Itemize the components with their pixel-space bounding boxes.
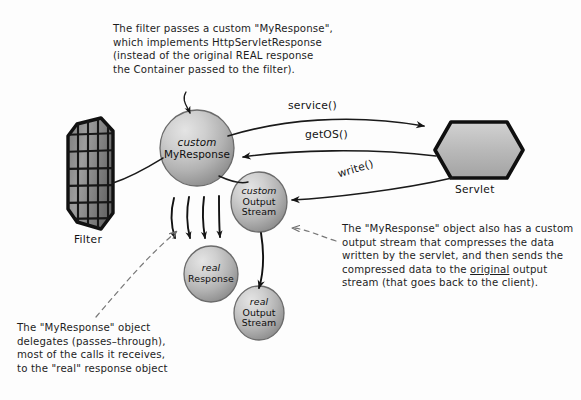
node-real-output-stream[interactable]: real Output Stream bbox=[234, 286, 284, 340]
arrow-customstream-to-realstream bbox=[259, 233, 263, 288]
leader-bottom-left-note bbox=[96, 232, 176, 317]
label-filter: Filter bbox=[74, 233, 102, 245]
node-real-output-stream-line3: Stream bbox=[242, 318, 277, 329]
arrow-write-call bbox=[292, 178, 452, 200]
label-write-call: write() bbox=[336, 157, 375, 180]
node-custom-output-stream-line1: custom bbox=[241, 186, 276, 197]
node-custom-myresponse[interactable]: custom MyResponse bbox=[160, 110, 234, 186]
note-top: The filter passes a custom "MyResponse",… bbox=[113, 22, 363, 76]
node-custom-output-stream[interactable]: custom Output Stream bbox=[231, 172, 287, 232]
node-real-response-line2: Response bbox=[188, 274, 234, 285]
node-real-output-stream-line1: real bbox=[250, 297, 268, 308]
connector-filter-to-myresponse bbox=[113, 158, 163, 183]
diagram-canvas: custom MyResponse custom Output Stream r… bbox=[0, 0, 581, 400]
note-right-underlined: original bbox=[470, 264, 509, 275]
arrow-getos-call bbox=[243, 151, 436, 157]
label-service-call: service() bbox=[288, 99, 337, 112]
note-bottom-left: The "MyResponse" object delegates (passe… bbox=[17, 321, 227, 375]
label-getos-call: getOS() bbox=[305, 128, 348, 141]
node-real-output-stream-text: real Output Stream bbox=[234, 286, 284, 340]
node-real-response[interactable]: real Response bbox=[184, 246, 238, 302]
label-servlet: Servlet bbox=[455, 183, 495, 195]
note-right: The "MyResponse" object also has a custo… bbox=[342, 222, 578, 290]
leader-right-note bbox=[293, 228, 336, 241]
filter-shape bbox=[62, 116, 120, 232]
servlet-shape bbox=[435, 122, 523, 178]
node-custom-output-stream-text: custom Output Stream bbox=[231, 172, 287, 232]
node-custom-myresponse-line2: MyResponse bbox=[164, 148, 230, 160]
node-custom-output-stream-line3: Stream bbox=[242, 207, 277, 218]
node-real-response-text: real Response bbox=[184, 246, 238, 302]
node-custom-myresponse-line1: custom bbox=[178, 136, 217, 148]
delegation-arrows bbox=[171, 196, 220, 238]
node-custom-myresponse-text: custom MyResponse bbox=[160, 110, 234, 186]
